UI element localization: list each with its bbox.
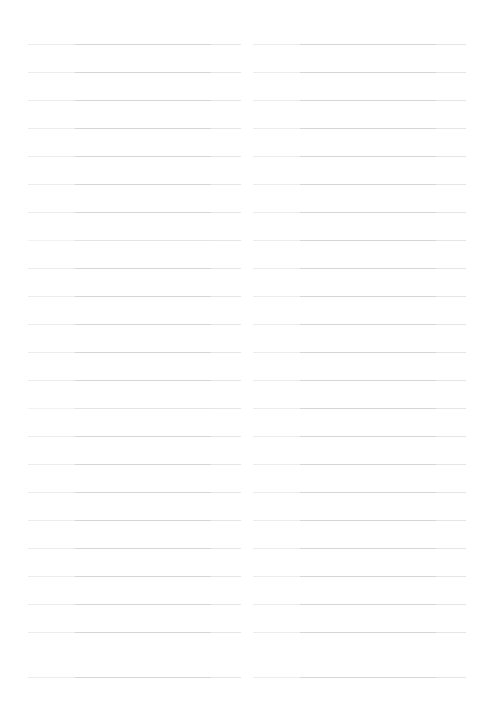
rule-line	[253, 156, 466, 157]
rule-line	[253, 604, 466, 605]
rule-line	[28, 128, 241, 129]
rule-line	[253, 677, 466, 678]
rule-line	[28, 324, 241, 325]
rule-line	[253, 128, 466, 129]
scanned-page	[0, 0, 484, 708]
rule-line	[28, 464, 241, 465]
rule-line	[28, 436, 241, 437]
rule-line	[28, 677, 241, 678]
rule-line	[28, 100, 241, 101]
rule-line	[253, 548, 466, 549]
rule-line	[28, 212, 241, 213]
rule-line	[253, 632, 466, 633]
rule-line	[253, 352, 466, 353]
rule-line	[28, 576, 241, 577]
right-text-column	[253, 0, 466, 708]
left-text-column	[28, 0, 241, 708]
rule-line	[28, 240, 241, 241]
rule-line	[253, 240, 466, 241]
rule-line	[28, 520, 241, 521]
rule-line	[253, 212, 466, 213]
rule-line	[253, 492, 466, 493]
rule-line	[28, 548, 241, 549]
rule-line	[253, 520, 466, 521]
rule-line	[28, 352, 241, 353]
rule-line	[28, 408, 241, 409]
rule-line	[253, 408, 466, 409]
rule-line	[28, 492, 241, 493]
rule-line	[253, 576, 466, 577]
rule-line	[253, 44, 466, 45]
rule-line	[28, 380, 241, 381]
rule-line	[253, 324, 466, 325]
rule-line	[253, 72, 466, 73]
rule-line	[253, 436, 466, 437]
rule-line	[253, 268, 466, 269]
rule-line	[28, 268, 241, 269]
rule-line	[253, 464, 466, 465]
rule-line	[28, 156, 241, 157]
rule-line	[253, 184, 466, 185]
rule-line	[28, 296, 241, 297]
rule-line	[28, 184, 241, 185]
rule-line	[28, 72, 241, 73]
rule-line	[253, 380, 466, 381]
rule-line	[253, 100, 466, 101]
rule-line	[28, 604, 241, 605]
rule-line	[28, 632, 241, 633]
rule-line	[28, 44, 241, 45]
rule-line	[253, 296, 466, 297]
